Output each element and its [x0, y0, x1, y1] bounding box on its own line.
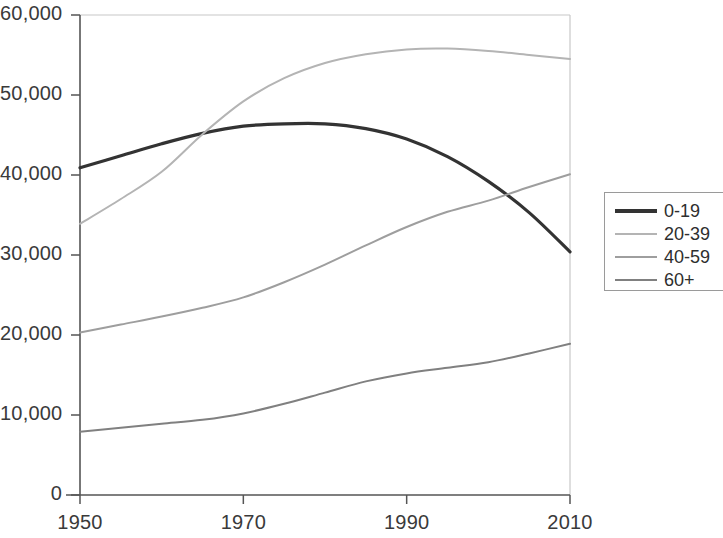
series-line-0-19 — [80, 123, 570, 251]
legend-entry-label: 60+ — [664, 271, 695, 289]
legend-entry-label: 40-59 — [664, 248, 710, 266]
y-axis-label-30000: 30,000 — [0, 242, 62, 265]
series-line-40-59 — [80, 174, 570, 332]
x-axis-label-1970: 1970 — [198, 511, 288, 534]
x-axis-label-1950: 1950 — [35, 511, 125, 534]
legend-entry-20-39[interactable]: 20-39 — [605, 222, 723, 246]
y-axis-label-50000: 50,000 — [0, 82, 62, 105]
y-axis-label-20000: 20,000 — [0, 322, 62, 345]
legend-entry-40-59[interactable]: 40-59 — [605, 245, 723, 269]
y-axis-label-10000: 10,000 — [0, 402, 62, 425]
series-line-60- — [80, 344, 570, 432]
legend-swatch-line-icon — [615, 209, 657, 212]
legend-entry-60-[interactable]: 60+ — [605, 268, 723, 292]
y-axis-label-0: 0 — [0, 482, 62, 505]
legend-entry-label: 0-19 — [664, 202, 700, 220]
y-axis-label-60000: 60,000 — [0, 2, 62, 25]
chart-legend: 0-1920-3940-5960+ — [604, 192, 723, 291]
population-age-group-line-chart: 010,00020,00030,00040,00050,00060,000 19… — [0, 0, 723, 538]
x-axis-label-1990: 1990 — [362, 511, 452, 534]
legend-entry-0-19[interactable]: 0-19 — [605, 199, 723, 223]
legend-swatch-line-icon — [615, 233, 657, 235]
legend-swatch-line-icon — [615, 279, 657, 281]
legend-entry-label: 20-39 — [664, 225, 710, 243]
x-axis-label-2010: 2010 — [525, 511, 615, 534]
legend-swatch-line-icon — [615, 256, 657, 258]
y-axis-label-40000: 40,000 — [0, 162, 62, 185]
